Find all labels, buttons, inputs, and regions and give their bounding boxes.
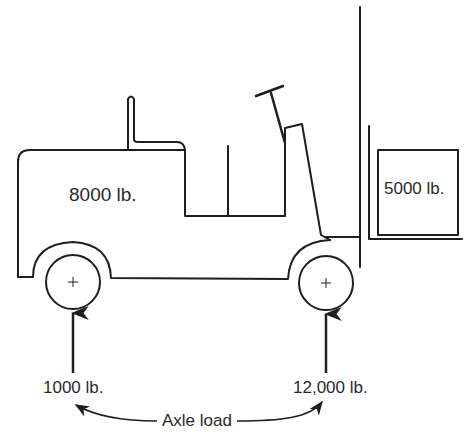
caption-arrow-right-icon	[237, 402, 322, 421]
steering-column	[271, 93, 285, 143]
front-axle-center-icon	[321, 278, 331, 288]
truck-weight-label: 8000 lb.	[69, 185, 137, 204]
load-weight-label: 5000 lb.	[384, 180, 445, 197]
truck-body-bottom	[33, 240, 330, 279]
rear-axle-center-icon	[68, 277, 78, 287]
forklift-diagram	[0, 0, 468, 440]
truck-body	[18, 150, 285, 277]
caption-arrow-left-icon	[76, 405, 157, 421]
rear-axle-load-label: 1000 lb.	[43, 379, 104, 396]
axle-load-caption: Axle load	[162, 412, 232, 429]
front-axle-load-label: 12,000 lb.	[293, 379, 368, 396]
dashboard	[285, 124, 330, 240]
steering-wheel	[256, 86, 283, 96]
operator-seat	[128, 97, 185, 151]
